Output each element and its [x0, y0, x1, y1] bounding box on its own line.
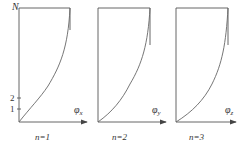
caption-n2: n=2: [112, 132, 128, 142]
mode-curve: [176, 8, 228, 122]
phi-x-label: φx: [74, 104, 84, 117]
phi-y-label: φy: [152, 104, 162, 117]
caption-n3: n=3: [189, 132, 205, 142]
mode-curve: [98, 8, 150, 122]
caption-n1: n=1: [35, 132, 50, 142]
mode-curve: [19, 8, 70, 122]
tick-1: 1: [10, 104, 15, 114]
y-axis-label: N: [11, 1, 20, 12]
phi-z-label: φz: [225, 104, 234, 117]
mode-shape-diagram: N 1 2 φx n=1 φy n=2 φz n=3: [0, 0, 239, 145]
panel-n1: N 1 2 φx n=1: [10, 1, 87, 142]
panel-n2: φy n=2: [98, 8, 166, 142]
tick-2: 2: [10, 93, 15, 103]
panel-n3: φz n=3: [176, 8, 236, 142]
